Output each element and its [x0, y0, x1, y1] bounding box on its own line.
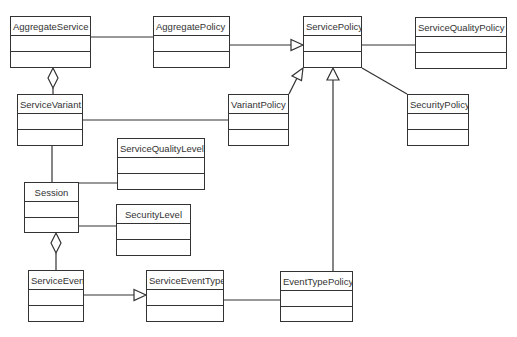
class-aggregate-policy[interactable]: AggregatePolicy: [153, 16, 230, 68]
class-name: VariantPolicy: [229, 95, 288, 114]
class-service-event[interactable]: ServiceEvent: [28, 270, 84, 322]
class-service-policy[interactable]: ServicePolicy: [303, 16, 362, 68]
class-service-quality-policy[interactable]: ServiceQualityPolicy: [415, 17, 507, 69]
generalization-arrow-icon: [327, 68, 339, 80]
class-name: AggregatePolicy: [154, 17, 229, 36]
uml-class-diagram: AggregateService AggregatePolicy Service…: [0, 0, 517, 337]
attributes-compartment: [118, 158, 204, 174]
operations-compartment: [11, 52, 90, 67]
attributes-compartment: [408, 114, 468, 130]
generalization-arrow-icon: [291, 40, 303, 51]
class-name: ServiceEvent: [29, 271, 83, 290]
class-service-event-type[interactable]: ServiceEventType: [146, 270, 224, 322]
attributes-compartment: [281, 291, 352, 307]
class-name: EventTypePolicy: [281, 272, 352, 291]
attributes-compartment: [304, 36, 361, 52]
attributes-compartment: [117, 224, 190, 240]
class-name: ServiceQualityPolicy: [416, 18, 506, 37]
generalization-arrow-icon: [134, 290, 146, 301]
attributes-compartment: [229, 114, 288, 130]
operations-compartment: [25, 218, 78, 233]
class-service-variant[interactable]: ServiceVariant: [17, 94, 83, 146]
class-name: Session: [25, 183, 78, 202]
class-name: ServiceEventType: [147, 271, 223, 290]
class-event-type-policy[interactable]: EventTypePolicy: [280, 271, 353, 322]
class-security-level[interactable]: SecurityLevel: [116, 204, 191, 256]
generalization-arrow-icon: [292, 68, 303, 81]
attributes-compartment: [416, 37, 506, 53]
aggregation-diamond-icon: [48, 68, 58, 88]
class-name: ServicePolicy: [304, 17, 361, 36]
operations-compartment: [304, 52, 361, 67]
attributes-compartment: [11, 36, 90, 52]
aggregation-diamond-icon: [51, 233, 61, 253]
operations-compartment: [281, 307, 352, 322]
class-name: ServiceVariant: [18, 95, 82, 114]
class-variant-policy[interactable]: VariantPolicy: [228, 94, 289, 146]
operations-compartment: [18, 130, 82, 145]
class-name: AggregateService: [11, 17, 90, 36]
class-security-policy[interactable]: SecurityPolicy: [407, 94, 469, 146]
operations-compartment: [229, 130, 288, 145]
class-name: SecurityLevel: [117, 205, 190, 224]
attributes-compartment: [154, 36, 229, 52]
class-aggregate-service[interactable]: AggregateService: [10, 16, 91, 68]
association-servicepolicy-securitypolicy: [362, 68, 407, 94]
operations-compartment: [154, 52, 229, 67]
attributes-compartment: [29, 290, 83, 306]
attributes-compartment: [147, 290, 223, 306]
class-session[interactable]: Session: [24, 182, 79, 233]
operations-compartment: [147, 306, 223, 321]
attributes-compartment: [18, 114, 82, 130]
class-name: ServiceQualityLevel: [118, 139, 204, 158]
operations-compartment: [29, 306, 83, 321]
generalization-line-variantpolicy: [289, 78, 297, 94]
operations-compartment: [408, 130, 468, 145]
class-name: SecurityPolicy: [408, 95, 468, 114]
operations-compartment: [117, 240, 190, 255]
attributes-compartment: [25, 202, 78, 218]
class-service-quality-level[interactable]: ServiceQualityLevel: [117, 138, 205, 190]
operations-compartment: [416, 53, 506, 68]
operations-compartment: [118, 174, 204, 189]
